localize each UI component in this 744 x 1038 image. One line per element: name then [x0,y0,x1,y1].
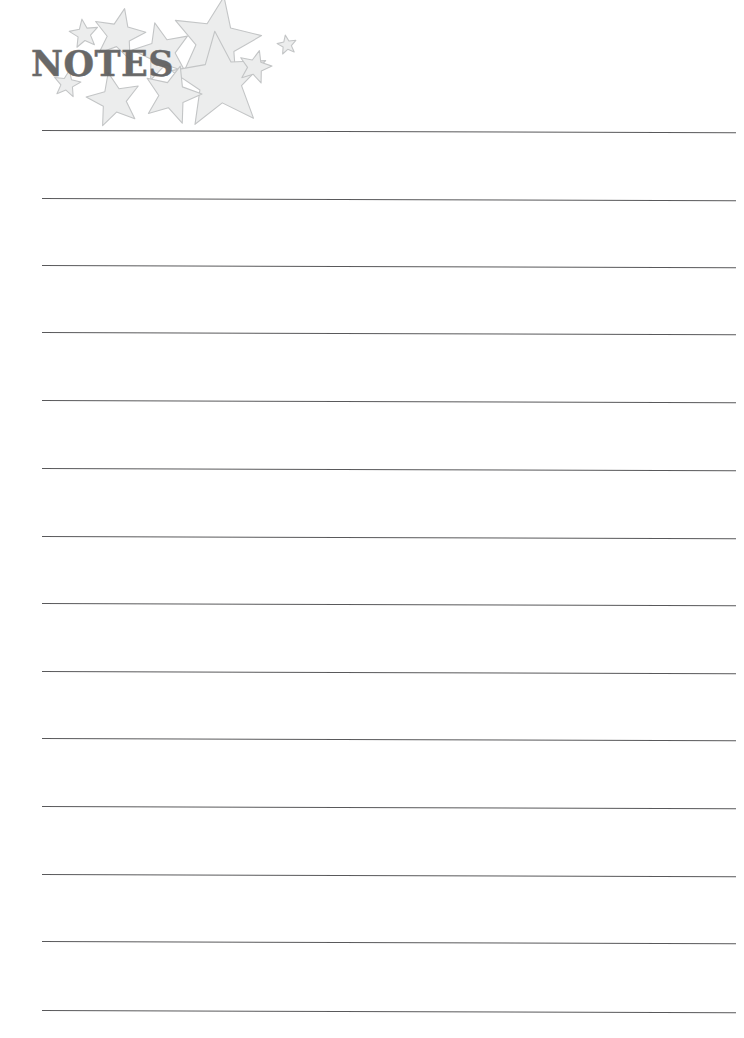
writing-line-8 [42,603,736,606]
writing-line-14 [42,1010,736,1013]
star-tiny-1-icon [274,32,300,58]
writing-line-13 [42,941,736,944]
writing-line-12 [42,874,736,877]
writing-line-11 [42,806,736,809]
writing-line-1 [42,130,736,133]
writing-line-10 [42,738,736,741]
star-small-2-icon [235,47,275,87]
writing-line-9 [42,671,736,674]
writing-line-7 [42,536,736,539]
writing-line-5 [42,400,736,403]
writing-line-2 [42,198,736,201]
writing-line-4 [42,332,736,335]
ruled-lines-area [0,0,744,1038]
writing-line-6 [42,468,736,471]
writing-line-3 [42,265,736,268]
notes-page: NOTES [0,0,744,1038]
page-title: NOTES [31,45,174,83]
